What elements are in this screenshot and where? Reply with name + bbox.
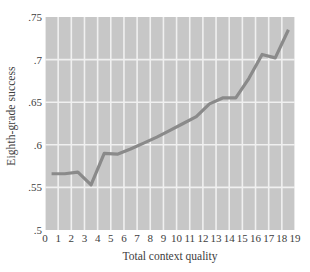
horizontal-gridlines [45, 60, 295, 188]
y-axis-tick-p55: .55 [28, 181, 42, 193]
x-axis-tick-11: 11 [184, 232, 195, 244]
chart-figure: Eighth-grade success .5.55.6.65.7.75 012… [0, 0, 310, 272]
x-axis-tick-16: 16 [250, 232, 261, 244]
data-line-series-1 [52, 30, 289, 185]
x-axis-tick-17: 17 [263, 232, 274, 244]
x-axis-tick-15: 15 [237, 232, 248, 244]
x-axis-label: Total context quality [45, 250, 295, 262]
y-axis-tick-p7: .7 [34, 54, 42, 66]
x-axis-tick-5: 5 [108, 232, 114, 244]
x-axis-tick-7: 7 [134, 232, 140, 244]
x-axis-tick-12: 12 [197, 232, 208, 244]
y-axis-tick-p6: .6 [34, 139, 42, 151]
x-axis-tick-18: 18 [276, 232, 287, 244]
x-axis-tick-4: 4 [95, 232, 101, 244]
y-axis-tick-p65: .65 [28, 96, 42, 108]
y-axis-tick-p5: .5 [34, 224, 42, 236]
y-axis-label: Eighth-grade success [0, 0, 22, 232]
x-axis-tick-3: 3 [82, 232, 88, 244]
x-axis-tick-13: 13 [211, 232, 222, 244]
x-axis-tick-10: 10 [171, 232, 182, 244]
x-axis-tick-6: 6 [121, 232, 127, 244]
plot-area [45, 17, 295, 230]
x-axis-tick-1: 1 [55, 232, 61, 244]
vertical-gridlines [45, 17, 295, 230]
x-axis-tick-19: 19 [290, 232, 301, 244]
x-axis-tick-0: 0 [42, 232, 48, 244]
y-axis-tick-p75: .75 [28, 11, 42, 23]
x-axis-tick-14: 14 [224, 232, 235, 244]
x-axis-tick-2: 2 [69, 232, 75, 244]
x-axis-tick-labels: 012345678910111213141516171819 [45, 232, 295, 248]
x-axis-tick-9: 9 [161, 232, 167, 244]
y-axis-tick-labels: .5.55.6.65.7.75 [22, 0, 44, 240]
plot-svg [45, 17, 295, 230]
x-axis-tick-8: 8 [148, 232, 154, 244]
y-axis-label-text: Eighth-grade success [5, 66, 17, 165]
